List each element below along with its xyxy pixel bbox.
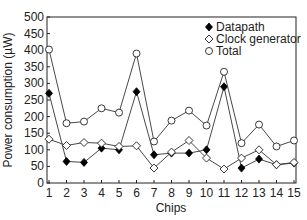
open-circle-marker-icon: [186, 107, 193, 114]
filled-diamond-marker-icon: [238, 164, 245, 172]
x-tick-label: 8: [168, 186, 175, 200]
y-tick-label: 300: [24, 76, 44, 90]
open-circle-marker-icon: [133, 50, 140, 57]
y-tick-label: 150: [24, 126, 44, 140]
plot-series: [45, 46, 298, 173]
open-circle-marker-icon: [291, 137, 298, 144]
y-tick-label: 400: [24, 43, 44, 57]
open-circle-marker-icon: [256, 121, 263, 128]
power-consumption-chart: 0501001502002503003504004505001234567891…: [0, 0, 307, 220]
y-tick-label: 50: [31, 159, 45, 173]
open-circle-marker-icon: [46, 46, 53, 53]
filled-diamond-marker-icon: [63, 157, 70, 165]
x-tick-label: 3: [81, 186, 88, 200]
open-circle-marker-icon: [116, 109, 123, 116]
y-tick-label: 200: [24, 110, 44, 124]
open-diamond-marker-icon: [98, 139, 106, 147]
series-total: [46, 46, 298, 150]
y-tick-label: 450: [24, 27, 44, 41]
x-tick-label: 5: [116, 186, 123, 200]
x-tick-label: 13: [252, 186, 266, 200]
open-diamond-marker-icon: [290, 158, 298, 166]
filled-diamond-marker-icon: [221, 83, 228, 91]
y-tick-label: 250: [24, 93, 44, 107]
open-diamond-marker-icon: [45, 135, 53, 143]
open-circle-marker-icon: [98, 105, 105, 112]
filled-diamond-marker-icon: [203, 146, 210, 154]
y-tick-label: 350: [24, 60, 44, 74]
series-clock-generator: [45, 135, 298, 173]
open-circle-marker-icon: [238, 140, 245, 147]
open-circle-marker-icon: [203, 122, 210, 129]
filled-diamond-marker-icon: [206, 23, 213, 31]
open-circle-marker-icon: [273, 143, 280, 150]
open-circle-marker-icon: [221, 68, 228, 75]
series-line: [49, 50, 294, 147]
filled-diamond-marker-icon: [151, 151, 158, 159]
open-circle-marker-icon: [63, 120, 70, 127]
open-diamond-marker-icon: [80, 138, 88, 146]
filled-diamond-marker-icon: [133, 88, 140, 96]
y-tick-label: 500: [24, 10, 44, 24]
x-tick-label: 4: [98, 186, 105, 200]
y-tick-label: 0: [37, 176, 44, 190]
open-diamond-marker-icon: [205, 35, 213, 43]
open-circle-marker-icon: [168, 117, 175, 124]
x-tick-label: 15: [287, 186, 301, 200]
x-tick-label: 1: [46, 186, 53, 200]
filled-diamond-marker-icon: [256, 155, 263, 163]
x-tick-label: 9: [186, 186, 193, 200]
legend: DatapathClock generatorTotal: [205, 20, 301, 58]
open-diamond-marker-icon: [63, 141, 71, 149]
x-tick-label: 7: [151, 186, 158, 200]
x-tick-label: 11: [218, 186, 231, 200]
legend-label: Total: [216, 44, 241, 58]
open-circle-marker-icon: [81, 118, 88, 125]
x-axis-label: Chips: [156, 201, 187, 215]
filled-diamond-marker-icon: [81, 158, 88, 166]
open-diamond-marker-icon: [133, 142, 141, 150]
x-tick-label: 2: [63, 186, 70, 200]
x-tick-label: 10: [200, 186, 214, 200]
x-tick-label: 12: [235, 186, 249, 200]
open-circle-marker-icon: [206, 48, 213, 55]
x-tick-label: 6: [133, 186, 140, 200]
open-circle-marker-icon: [151, 138, 158, 145]
x-tick-label: 14: [270, 186, 284, 200]
y-tick-label: 100: [24, 143, 44, 157]
open-diamond-marker-icon: [220, 165, 228, 173]
filled-diamond-marker-icon: [186, 149, 193, 157]
y-axis-label: Power consumption (µW): [1, 33, 15, 168]
